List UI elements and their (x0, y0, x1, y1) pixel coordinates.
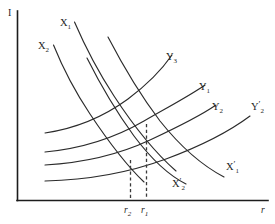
curve-labels-group: X1 X2 Y3 Y1 Y2 Y′2 X′1 X′2 (38, 17, 265, 192)
axis-labels-group: I r (8, 7, 265, 215)
x-tick-label-r2: r2 (124, 205, 132, 218)
y-curves-group (45, 55, 250, 181)
curve-label-x1: X1 (60, 17, 72, 31)
curve-y1 (45, 85, 205, 152)
curve-label-y3: Y3 (166, 51, 178, 65)
x-tick-label-r1: r1 (141, 205, 148, 218)
curve-label-x2: X2 (38, 40, 50, 54)
curve-y3 (45, 55, 172, 133)
x-curves-group (54, 22, 225, 184)
chart-figure: X1 X2 Y3 Y1 Y2 Y′2 X′1 X′2 (0, 0, 275, 224)
x-tick-labels-group: r2 r1 (124, 205, 148, 218)
curve-label-y2-prime: Y′2 (251, 99, 265, 115)
curve-label-x2-prime: X′2 (172, 176, 186, 192)
curve-label-x1-prime: X′1 (226, 159, 240, 175)
curve-label-y2: Y2 (212, 101, 224, 115)
x-axis-label: r (261, 205, 265, 215)
chart-axes (17, 11, 268, 201)
y-axis-label: I (8, 7, 11, 18)
curve-label-y1: Y1 (199, 81, 211, 95)
curve-x1 (75, 22, 177, 171)
economics-curve-chart: X1 X2 Y3 Y1 Y2 Y′2 X′1 X′2 (0, 0, 275, 224)
curve-y2 (45, 105, 216, 165)
